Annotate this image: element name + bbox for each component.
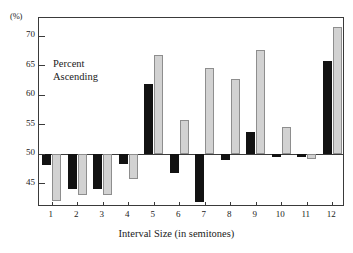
bar-light-1 xyxy=(52,154,61,201)
x-axis-tick-label: 1 xyxy=(39,209,63,219)
x-axis-tick xyxy=(205,202,206,206)
bar-light-2 xyxy=(78,154,87,195)
y-axis-tick xyxy=(39,183,45,184)
x-axis-tick-label: 6 xyxy=(166,209,190,219)
y-axis-tick-label: 55 xyxy=(26,119,35,128)
x-axis-tick-label: 2 xyxy=(64,209,88,219)
x-axis-tick xyxy=(52,202,53,206)
x-axis-tick xyxy=(128,202,129,206)
bar-light-10 xyxy=(282,127,291,154)
y-axis-tick-label: 45 xyxy=(26,178,35,187)
y-axis-tick xyxy=(39,124,45,125)
bar-chart-figure: (%) 455055606570 PercentAscending 123456… xyxy=(0,0,353,253)
bar-dark-12 xyxy=(323,61,332,154)
y-axis-tick-label: 65 xyxy=(26,60,35,69)
x-axis-tick-label: 11 xyxy=(294,209,318,219)
x-axis-tick xyxy=(179,202,180,206)
bar-dark-5 xyxy=(144,84,153,154)
bar-light-5 xyxy=(154,55,163,154)
y-axis-tick xyxy=(39,95,45,96)
x-axis-tick xyxy=(230,202,231,206)
bar-dark-10 xyxy=(272,154,281,158)
x-axis-tick-label: 3 xyxy=(90,209,114,219)
bar-light-3 xyxy=(103,154,112,195)
bar-light-9 xyxy=(256,50,265,154)
y-axis-tick-label: 50 xyxy=(26,148,35,157)
bar-dark-2 xyxy=(68,154,77,189)
x-axis-title: Interval Size (in semitones) xyxy=(0,228,353,240)
bar-dark-1 xyxy=(42,154,51,165)
x-axis-tick-label: 12 xyxy=(319,209,343,219)
x-axis-tick-label: 5 xyxy=(141,209,165,219)
bar-light-4 xyxy=(129,154,138,179)
bar-dark-8 xyxy=(221,154,230,161)
bar-dark-9 xyxy=(246,132,255,154)
x-axis-tick-label: 8 xyxy=(217,209,241,219)
x-axis-tick xyxy=(281,202,282,206)
y-axis-tick-label: 70 xyxy=(26,30,35,39)
bar-light-6 xyxy=(180,120,189,154)
annotation-line: Ascending xyxy=(53,71,98,84)
x-axis-tick xyxy=(307,202,308,206)
y-axis-unit-label: (%) xyxy=(10,11,22,21)
bar-light-8 xyxy=(231,79,240,154)
annotation-line: Percent xyxy=(53,58,98,71)
bar-dark-11 xyxy=(297,154,306,158)
bar-dark-6 xyxy=(170,154,179,173)
y-axis-tick xyxy=(39,36,45,37)
bar-dark-7 xyxy=(195,154,204,202)
bar-light-12 xyxy=(333,27,342,154)
x-axis-tick xyxy=(77,202,78,206)
bar-light-11 xyxy=(307,154,316,159)
bar-dark-3 xyxy=(93,154,102,189)
x-axis-tick xyxy=(256,202,257,206)
x-axis-tick-label: 10 xyxy=(268,209,292,219)
y-axis-tick xyxy=(39,154,45,155)
x-axis-tick xyxy=(154,202,155,206)
x-axis-tick-label: 7 xyxy=(192,209,216,219)
x-axis-tick xyxy=(332,202,333,206)
x-axis-tick xyxy=(103,202,104,206)
plot-area: PercentAscending xyxy=(38,17,344,206)
x-axis-tick-label: 4 xyxy=(115,209,139,219)
bar-light-7 xyxy=(205,68,214,154)
plot-annotation: PercentAscending xyxy=(53,58,98,83)
x-axis-tick-label: 9 xyxy=(243,209,267,219)
bar-dark-4 xyxy=(119,154,128,164)
y-axis-tick xyxy=(39,65,45,66)
y-axis-tick-label: 60 xyxy=(26,89,35,98)
